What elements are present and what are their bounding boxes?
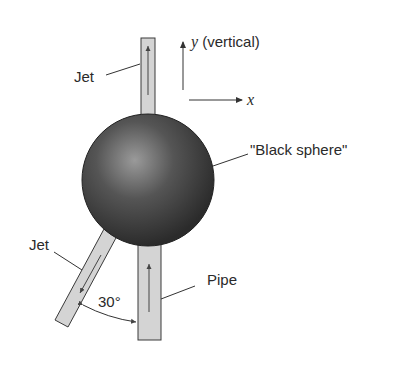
black-sphere-jet-diagram: Jet Jet Pipe "Black sphere" 30° y (verti… (0, 0, 400, 365)
jet-angled-leader-line (54, 252, 82, 270)
jet-top-leader-line (106, 64, 140, 75)
sphere-leader-line (213, 154, 248, 166)
jet-top-label: Jet (74, 68, 95, 85)
pipe-leader-line (161, 286, 195, 299)
y-axis-label: y (vertical) (189, 33, 260, 51)
pipe (138, 240, 161, 340)
x-axis-label: x (246, 91, 254, 108)
black-sphere (82, 114, 214, 246)
sphere-label: "Black sphere" (250, 141, 347, 158)
jet-angled-label: Jet (29, 236, 50, 253)
angle-label: 30° (98, 293, 121, 310)
pipe-label: Pipe (207, 271, 237, 288)
angled-jet (55, 229, 117, 327)
y-axis-note: (vertical) (198, 33, 260, 50)
coordinate-axes (183, 42, 242, 100)
top-jet (141, 38, 155, 118)
